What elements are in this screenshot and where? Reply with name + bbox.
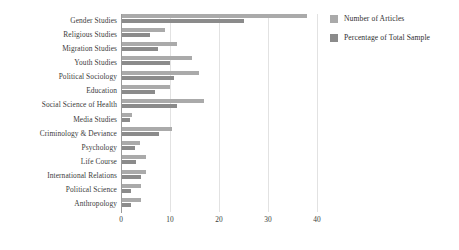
y-axis-label: Education <box>0 87 117 95</box>
y-axis-label: Youth Studies <box>0 59 117 67</box>
bar-group <box>121 99 317 113</box>
bar <box>121 61 170 65</box>
bar <box>121 76 174 80</box>
y-axis-label: International Relations <box>0 172 117 180</box>
legend-item-number-of-articles: Number of Articles <box>330 14 456 24</box>
chart-legend: Number of Articles Percentage of Total S… <box>330 14 456 51</box>
x-axis-tick-label: 30 <box>264 215 271 225</box>
legend-label-percentage-of-total-sample: Percentage of Total Sample <box>344 33 430 43</box>
bar-group <box>121 14 317 28</box>
bar <box>121 132 159 136</box>
bar <box>121 203 131 207</box>
bar-group <box>121 113 317 127</box>
bar <box>121 198 141 202</box>
bar-group <box>121 141 317 155</box>
bar <box>121 127 172 131</box>
bar-group <box>121 42 317 56</box>
bar-group <box>121 127 317 141</box>
bar-group <box>121 71 317 85</box>
bar <box>121 170 146 174</box>
y-axis-label: Religious Studies <box>0 31 117 39</box>
y-axis-label: Migration Studies <box>0 45 117 53</box>
bar-group <box>121 184 317 198</box>
bar-group <box>121 85 317 99</box>
x-axis-ticks: 010203040 <box>121 215 317 229</box>
legend-swatch-icon-articles <box>330 15 338 23</box>
y-axis-label: Anthropology <box>0 200 117 208</box>
x-axis-tick-label: 0 <box>119 215 123 225</box>
gridline-40 <box>317 14 318 212</box>
bar <box>121 71 199 75</box>
bar <box>121 146 135 150</box>
bar <box>121 160 136 164</box>
bar-group <box>121 155 317 169</box>
bar-group <box>121 198 317 212</box>
y-axis-label: Life Course <box>0 158 117 166</box>
y-axis-labels: Gender StudiesReligious StudiesMigration… <box>0 14 117 212</box>
y-axis-label: Media Studies <box>0 116 117 124</box>
bar <box>121 118 130 122</box>
bar <box>121 175 141 179</box>
bar <box>121 155 146 159</box>
bar-rows <box>121 14 317 212</box>
bar <box>121 90 155 94</box>
bar <box>121 189 131 193</box>
bar <box>121 56 192 60</box>
bar-group <box>121 56 317 70</box>
plot-area <box>121 14 317 212</box>
y-axis-line <box>121 14 122 213</box>
bar <box>121 113 132 117</box>
legend-swatch-icon-percentage <box>330 34 338 42</box>
bar <box>121 141 140 145</box>
bar <box>121 42 177 46</box>
bar <box>121 14 307 18</box>
y-axis-label: Social Science of Health <box>0 101 117 109</box>
bar <box>121 28 165 32</box>
bar <box>121 85 170 89</box>
bar <box>121 19 244 23</box>
legend-item-percentage-of-total-sample: Percentage of Total Sample <box>330 33 456 43</box>
bar <box>121 47 158 51</box>
bar <box>121 99 204 103</box>
bar-chart: Gender StudiesReligious StudiesMigration… <box>0 0 459 250</box>
x-axis-tick-label: 40 <box>313 215 320 225</box>
legend-label-number-of-articles: Number of Articles <box>344 14 404 24</box>
bar <box>121 33 150 37</box>
bar-group <box>121 28 317 42</box>
y-axis-label: Criminology & Deviance <box>0 130 117 138</box>
x-axis-tick-label: 10 <box>166 215 173 225</box>
bar <box>121 184 141 188</box>
y-axis-label: Political Sociology <box>0 73 117 81</box>
y-axis-label: Political Science <box>0 186 117 194</box>
bar-group <box>121 170 317 184</box>
y-axis-label: Gender Studies <box>0 17 117 25</box>
y-axis-label: Psychology <box>0 144 117 152</box>
bar <box>121 104 177 108</box>
x-axis-tick-label: 20 <box>215 215 222 225</box>
